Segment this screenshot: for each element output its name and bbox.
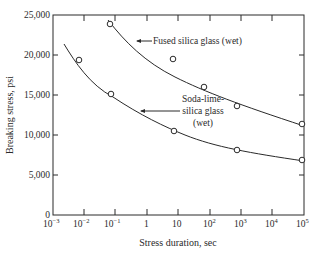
soda-lime-annotation: Soda-lime- silica glass (wet) xyxy=(140,94,224,129)
svg-text:103: 103 xyxy=(234,217,247,229)
svg-text:silica glass: silica glass xyxy=(182,106,224,116)
y-axis-title: Breaking stress, psi xyxy=(4,76,15,154)
y-tick-labels: 0 5,000 10,000 15,000 20,000 25,000 xyxy=(24,10,50,220)
svg-text:105: 105 xyxy=(296,217,309,229)
svg-text:20,000: 20,000 xyxy=(24,50,50,60)
svg-text:10: 10 xyxy=(172,219,182,229)
svg-text:5,000: 5,000 xyxy=(29,170,51,180)
svg-text:10−3: 10−3 xyxy=(43,217,59,229)
x-axis-title: Stress duration, sec xyxy=(139,237,217,248)
y-ticks xyxy=(53,55,304,175)
svg-text:10−2: 10−2 xyxy=(73,217,89,229)
svg-text:25,000: 25,000 xyxy=(24,10,50,20)
svg-text:10,000: 10,000 xyxy=(24,130,50,140)
fused-silica-annotation: Fused silica glass (wet) xyxy=(136,36,242,47)
svg-text:102: 102 xyxy=(203,217,216,229)
svg-text:1: 1 xyxy=(144,219,149,229)
svg-text:Fused silica glass (wet): Fused silica glass (wet) xyxy=(153,36,242,47)
chart: 0 5,000 10,000 15,000 20,000 25,000 10−3… xyxy=(0,0,317,255)
svg-text:104: 104 xyxy=(265,217,279,229)
svg-text:Soda-lime-: Soda-lime- xyxy=(182,94,224,104)
svg-text:10−1: 10−1 xyxy=(104,217,120,229)
svg-text:15,000: 15,000 xyxy=(24,90,50,100)
svg-text:(wet): (wet) xyxy=(193,118,213,129)
x-tick-labels: 10−3 10−2 10−1 1 10 102 103 104 105 xyxy=(43,217,309,229)
